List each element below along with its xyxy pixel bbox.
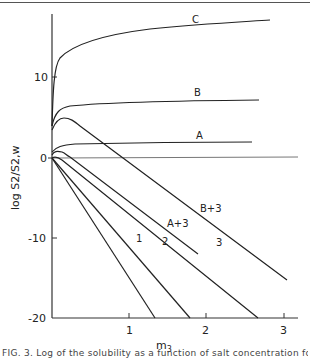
label-1: 1: [136, 233, 142, 244]
label-C: C: [192, 14, 199, 25]
figure-caption: FIG. 3. Log of the solubility as a funct…: [2, 348, 308, 358]
solubility-chart: 10 0 -10 -20 1 2 3 m3 log S2/S2,w C B A …: [0, 0, 310, 360]
y-tick-label-10: 10: [34, 71, 48, 84]
curve-B: [52, 100, 259, 126]
label-A-plus-3: A+3: [167, 218, 189, 229]
label-B-plus-3: B+3: [200, 203, 222, 214]
y-tick-label-neg20: -20: [28, 312, 46, 325]
x-tick-label-3: 3: [280, 324, 287, 337]
label-2: 2: [162, 236, 168, 247]
y-tick-label-neg10: -10: [28, 232, 46, 245]
curve-A: [52, 142, 252, 152]
label-A: A: [196, 130, 203, 141]
y-axis-title: log S2/S2,w: [9, 146, 22, 210]
label-3: 3: [216, 237, 222, 248]
curve-A-plus-3: [52, 151, 198, 254]
curve-C: [52, 20, 270, 126]
y-tick-label-0: 0: [40, 152, 47, 165]
x-tick-label-1: 1: [126, 324, 133, 337]
x-tick-label-2: 2: [202, 324, 209, 337]
zero-reference-line: [52, 157, 298, 158]
curve-2: [52, 158, 190, 318]
label-B: B: [194, 87, 201, 98]
